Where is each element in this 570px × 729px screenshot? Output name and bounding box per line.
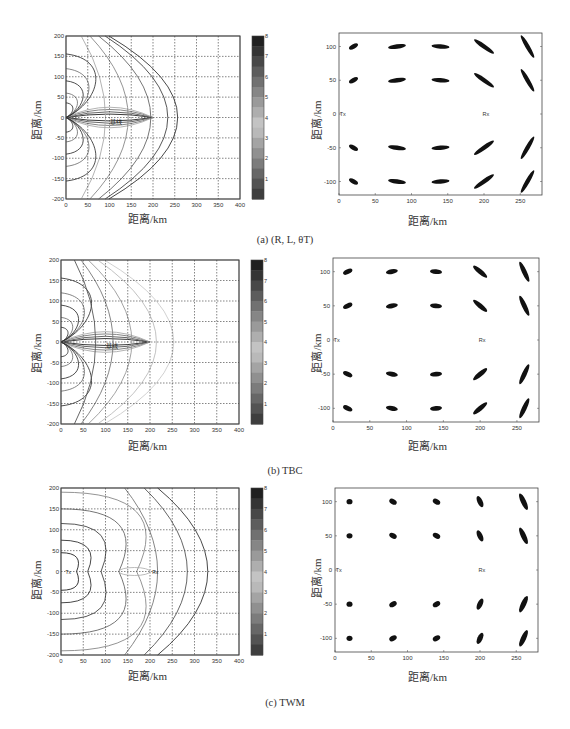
svg-text:1: 1 bbox=[265, 176, 268, 182]
svg-text:-50: -50 bbox=[323, 601, 332, 607]
contour-b-xlabel: 距离/km bbox=[128, 437, 167, 453]
svg-text:150: 150 bbox=[123, 658, 134, 664]
svg-text:50: 50 bbox=[368, 655, 375, 661]
svg-text:300: 300 bbox=[189, 658, 200, 664]
error-cluster bbox=[347, 636, 353, 641]
error-cluster bbox=[347, 533, 353, 538]
svg-text:50: 50 bbox=[80, 658, 87, 664]
svg-text:50: 50 bbox=[84, 202, 91, 208]
svg-text:5: 5 bbox=[264, 319, 267, 325]
svg-text:2: 2 bbox=[265, 155, 268, 161]
svg-text:0: 0 bbox=[64, 202, 68, 208]
svg-text:100: 100 bbox=[54, 74, 65, 80]
contour-c-xlabel: 距离/km bbox=[128, 667, 167, 683]
svg-text:100: 100 bbox=[322, 499, 333, 505]
svg-text:-50: -50 bbox=[50, 360, 59, 366]
svg-text:-100: -100 bbox=[320, 635, 333, 641]
svg-text:200: 200 bbox=[479, 198, 490, 204]
contour-b-ylabel: 距离/km bbox=[28, 333, 44, 372]
svg-text:100: 100 bbox=[320, 269, 331, 275]
svg-text:1: 1 bbox=[264, 401, 267, 407]
svg-text:300: 300 bbox=[191, 202, 202, 208]
svg-text:0: 0 bbox=[329, 567, 333, 573]
svg-text:2: 2 bbox=[264, 610, 267, 616]
svg-text:200: 200 bbox=[145, 658, 156, 664]
svg-text:250: 250 bbox=[167, 427, 178, 433]
svg-text:-100: -100 bbox=[318, 405, 331, 411]
svg-text:100: 100 bbox=[402, 425, 413, 431]
svg-text:100: 100 bbox=[402, 655, 413, 661]
svg-text:基线: 基线 bbox=[106, 342, 118, 349]
caption-c: (c) TWM bbox=[0, 697, 570, 708]
svg-text:150: 150 bbox=[123, 427, 134, 433]
svg-text:200: 200 bbox=[148, 202, 159, 208]
svg-text:50: 50 bbox=[366, 425, 373, 431]
svg-text:-50: -50 bbox=[327, 145, 336, 151]
scatter-b-ylabel: 距离/km bbox=[308, 333, 324, 372]
svg-text:3: 3 bbox=[264, 589, 267, 595]
svg-text:100: 100 bbox=[406, 198, 417, 204]
svg-text:2: 2 bbox=[264, 380, 267, 386]
svg-text:100: 100 bbox=[100, 427, 111, 433]
svg-text:350: 350 bbox=[212, 427, 223, 433]
svg-text:50: 50 bbox=[323, 303, 330, 309]
svg-text:200: 200 bbox=[49, 485, 60, 491]
svg-text:8: 8 bbox=[264, 485, 267, 491]
svg-text:150: 150 bbox=[438, 425, 449, 431]
svg-text:7: 7 bbox=[264, 506, 267, 512]
svg-text:100: 100 bbox=[104, 202, 115, 208]
svg-text:-50: -50 bbox=[55, 135, 64, 141]
svg-text:100: 100 bbox=[326, 44, 337, 50]
svg-text:200: 200 bbox=[145, 427, 156, 433]
svg-text:-100: -100 bbox=[47, 380, 60, 386]
svg-text:Rx: Rx bbox=[479, 337, 486, 343]
svg-text:150: 150 bbox=[443, 198, 454, 204]
svg-text:350: 350 bbox=[212, 658, 223, 664]
scatter-plot-c: TxRx050100150200250-100-50050100 bbox=[290, 480, 570, 695]
scatter-c-ylabel: 距离/km bbox=[308, 558, 324, 597]
svg-text:0: 0 bbox=[333, 111, 337, 117]
svg-text:0: 0 bbox=[56, 339, 60, 345]
scatter-c-xlabel: 距离/km bbox=[408, 668, 447, 684]
svg-text:350: 350 bbox=[213, 202, 224, 208]
svg-text:6: 6 bbox=[265, 74, 268, 80]
caption-b: (b) TBC bbox=[0, 465, 570, 476]
scatter-a-xlabel: 距离/km bbox=[408, 212, 447, 228]
svg-text:-200: -200 bbox=[52, 196, 65, 202]
svg-text:100: 100 bbox=[49, 298, 60, 304]
svg-text:50: 50 bbox=[372, 198, 379, 204]
scatter-b-xlabel: 距离/km bbox=[408, 437, 447, 453]
svg-text:4: 4 bbox=[264, 339, 267, 345]
svg-text:100: 100 bbox=[49, 527, 60, 533]
svg-text:150: 150 bbox=[439, 655, 450, 661]
svg-text:250: 250 bbox=[170, 202, 181, 208]
svg-text:50: 50 bbox=[325, 533, 332, 539]
svg-text:200: 200 bbox=[49, 257, 60, 263]
svg-text:7: 7 bbox=[264, 278, 267, 284]
svg-text:0: 0 bbox=[59, 427, 63, 433]
svg-text:0: 0 bbox=[333, 655, 337, 661]
svg-text:0: 0 bbox=[59, 658, 63, 664]
error-cluster bbox=[347, 499, 353, 504]
svg-text:100: 100 bbox=[100, 658, 111, 664]
svg-text:150: 150 bbox=[49, 278, 60, 284]
svg-text:1: 1 bbox=[264, 631, 267, 637]
svg-text:400: 400 bbox=[234, 658, 245, 664]
contour-c-ylabel: 距离/km bbox=[28, 560, 44, 599]
svg-text:0: 0 bbox=[327, 337, 331, 343]
svg-text:-50: -50 bbox=[50, 589, 59, 595]
svg-text:4: 4 bbox=[265, 115, 268, 121]
svg-text:3: 3 bbox=[265, 135, 268, 141]
svg-text:0: 0 bbox=[56, 569, 60, 575]
contour-a-ylabel: 距离/km bbox=[28, 100, 44, 139]
svg-text:-200: -200 bbox=[47, 652, 60, 658]
svg-text:-150: -150 bbox=[52, 176, 65, 182]
svg-text:4: 4 bbox=[264, 569, 267, 575]
svg-text:Rx: Rx bbox=[483, 111, 490, 117]
svg-text:7: 7 bbox=[265, 53, 268, 59]
svg-text:250: 250 bbox=[515, 198, 526, 204]
svg-text:250: 250 bbox=[511, 655, 522, 661]
svg-text:8: 8 bbox=[265, 33, 268, 39]
svg-text:50: 50 bbox=[52, 319, 59, 325]
svg-text:0: 0 bbox=[337, 198, 341, 204]
